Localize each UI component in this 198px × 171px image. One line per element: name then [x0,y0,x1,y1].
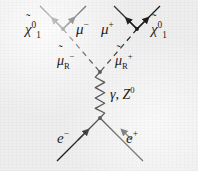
neutralino-left-sup: 0 [32,20,37,30]
label-electron: e− [57,131,69,146]
boson-separator: , [116,87,120,102]
muon-minus-base: μ [76,21,84,37]
smuon-annihilation-vertex [98,70,102,74]
label-neutralino-left: ˜χ01 [25,22,41,37]
neutralino-left-line [40,6,63,29]
upper-right-vertex [135,27,139,31]
muon-plus-base: μ [101,21,109,37]
tilde-accent-smuon-plus: ˜ [116,45,120,57]
tilde-accent-right-neutralino: ˜ [152,13,156,26]
muon-plus-line [114,6,137,29]
tilde-accent-smuon-minus: ˜ [58,45,62,57]
feynman-diagram-figure: ˜χ01 μ− μ+ ˜χ01 ˜μR− ˜μR+ γ, Z0 e− e+ [0,0,198,171]
smuon-minus-sub: R [64,61,70,71]
muon-plus-sup: + [109,20,114,30]
label-positron: e+ [126,131,138,146]
label-smuon-minus: ˜μR− [57,54,75,68]
neutralino-right-sub: 1 [162,30,167,40]
electron-base: e [57,130,64,146]
label-muon-plus: μ+ [101,22,114,37]
positron-sup: + [133,129,138,139]
smuon-plus-sup: + [128,51,133,61]
positron-base: e [126,130,133,146]
eplus-eminus-vertex [98,116,102,120]
neutralino-right-sup: 0 [158,20,163,30]
tilde-accent-left-neutralino: ˜ [26,13,30,26]
photon-z-propagator [95,72,104,118]
muon-minus-sup: − [84,20,89,30]
smuon-plus-sub: R [122,61,128,71]
upper-left-vertex [61,27,65,31]
label-neutralino-right: ˜χ01 [151,22,167,37]
label-gamma-z-boson: γ, Z0 [110,88,135,102]
z-boson-sup: 0 [130,85,134,95]
label-smuon-plus: ˜μR+ [115,54,133,68]
neutralino-left-sub: 1 [36,30,41,40]
smuon-minus-sup: − [70,51,75,61]
label-muon-minus: μ− [76,22,89,37]
electron-sup: − [64,129,69,139]
